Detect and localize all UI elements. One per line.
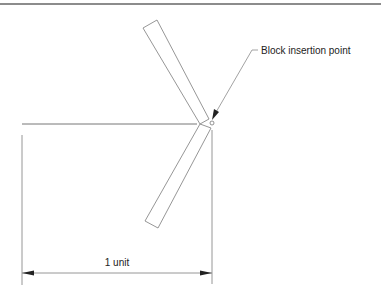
insertion-point-marker bbox=[210, 121, 214, 125]
leader-arrowhead bbox=[212, 109, 219, 120]
dimension-arrow-right-icon bbox=[200, 271, 212, 276]
dimension-label: 1 unit bbox=[105, 257, 130, 268]
insertion-point-label: Block insertion point bbox=[261, 45, 351, 56]
chevron-upper-arm bbox=[143, 20, 209, 124]
chevron-lower-arm bbox=[145, 124, 211, 228]
leader-line bbox=[215, 50, 258, 114]
dimension-arrow-left-icon bbox=[22, 271, 34, 276]
block-diagram: Block insertion point 1 unit bbox=[0, 0, 381, 302]
